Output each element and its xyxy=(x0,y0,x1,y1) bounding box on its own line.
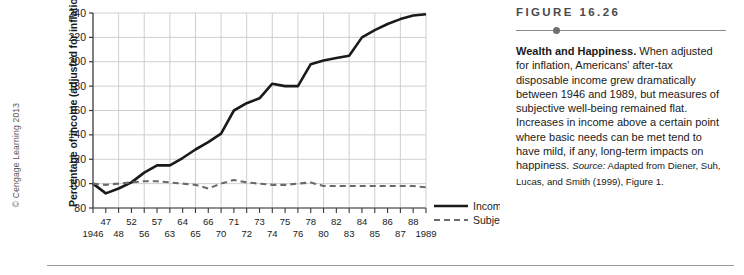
chart-panel: Percentage of income (adjusted for infla… xyxy=(30,0,500,250)
gridlines xyxy=(93,13,426,208)
y-axis-tick-label: 80 xyxy=(74,202,86,214)
divider-dot xyxy=(553,27,560,34)
x-axis-tick-label-upper: 73 xyxy=(254,216,265,227)
x-axis-tick-label-upper: 57 xyxy=(152,216,163,227)
legend-label-subjective-well-being: Subjective well-being xyxy=(473,214,500,226)
x-axis-tick-label-lower: 63 xyxy=(165,228,176,239)
x-axis-tick-label-lower: 85 xyxy=(369,228,380,239)
copyright-notice: © Cengage Learning 2013 xyxy=(11,95,21,215)
y-axis-tick-label: 100 xyxy=(68,177,86,189)
x-axis-tick-label-lower: 70 xyxy=(216,228,227,239)
x-axis-tick-label-upper: 88 xyxy=(408,216,419,227)
x-axis-tick-label-upper: 78 xyxy=(305,216,316,227)
x-axis-tick-label-upper: 86 xyxy=(382,216,393,227)
divider-line xyxy=(516,30,726,31)
legend-label-income: Income xyxy=(473,200,500,212)
x-axis-ticks xyxy=(93,208,426,213)
x-axis-tick-label-lower: 76 xyxy=(293,228,304,239)
x-axis-tick-label-lower: 1946 xyxy=(82,228,103,239)
caption-source-label: Source: xyxy=(572,160,605,171)
chart-legend: IncomeSubjective well-being xyxy=(434,200,500,226)
caption-column: FIGURE 16.26 Wealth and Happiness. When … xyxy=(516,6,726,189)
y-axis-tick-label: 200 xyxy=(68,55,86,67)
x-axis-tick-label-lower: 1989 xyxy=(415,228,436,239)
x-axis-tick-label-lower: 48 xyxy=(113,228,124,239)
x-axis-tick-label-upper: 75 xyxy=(280,216,291,227)
x-axis-tick-label-lower: 74 xyxy=(267,228,278,239)
x-axis-tick-label-upper: 47 xyxy=(101,216,112,227)
x-axis-tick-label-lower: 65 xyxy=(190,228,201,239)
x-axis-tick-label-upper: 52 xyxy=(126,216,137,227)
series-line-subjective-well-being xyxy=(93,180,426,189)
y-axis-tick-labels: 80100120140160180200220240 xyxy=(68,7,86,214)
x-axis-tick-label-lower: 56 xyxy=(139,228,150,239)
x-axis-tick-label-upper: 64 xyxy=(177,216,188,227)
bottom-divider xyxy=(47,265,734,266)
y-axis-tick-label: 240 xyxy=(68,7,86,19)
y-axis-tick-label: 180 xyxy=(68,80,86,92)
x-axis-tick-label-upper: 66 xyxy=(203,216,214,227)
series-line-income xyxy=(93,14,426,193)
x-axis-tick-label-upper: 82 xyxy=(331,216,342,227)
data-series xyxy=(93,14,426,193)
figure-number: FIGURE 16.26 xyxy=(516,6,726,18)
caption-title: Wealth and Happiness. xyxy=(516,45,636,57)
y-axis-tick-label: 120 xyxy=(68,153,86,165)
caption-body: Wealth and Happiness. When adjusted for … xyxy=(516,44,726,189)
x-axis-tick-label-upper: 71 xyxy=(229,216,240,227)
x-axis-tick-label-upper: 84 xyxy=(357,216,368,227)
y-axis-tick-label: 160 xyxy=(68,104,86,116)
y-axis-tick-label: 140 xyxy=(68,128,86,140)
line-chart: 80100120140160180200220240 4752576466717… xyxy=(30,0,500,250)
x-axis-tick-label-lower: 80 xyxy=(318,228,329,239)
caption-text: When adjusted for inflation, Americans' … xyxy=(516,45,719,171)
x-axis-tick-label-lower: 83 xyxy=(344,228,355,239)
figure-container: © Cengage Learning 2013 Percentage of in… xyxy=(0,0,744,275)
y-axis-tick-label: 220 xyxy=(68,31,86,43)
caption-divider xyxy=(516,27,726,34)
x-axis-tick-label-lower: 72 xyxy=(241,228,252,239)
x-axis-tick-label-lower: 87 xyxy=(395,228,406,239)
x-axis-tick-labels: 4752576466717375788284868819464856636570… xyxy=(82,216,436,239)
